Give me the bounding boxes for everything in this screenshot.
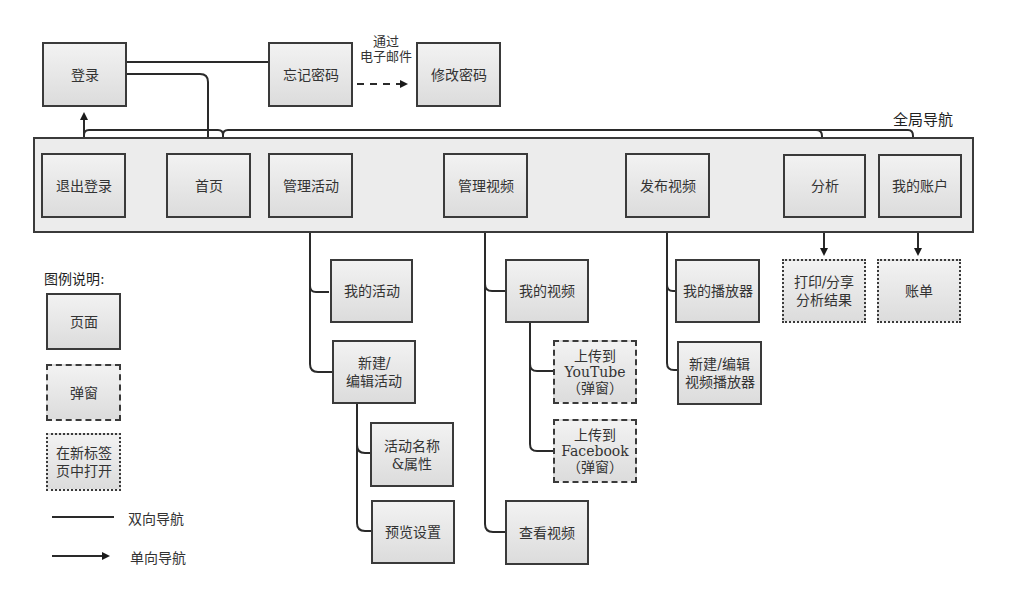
page-event-name-props: 活动名称 &属性 (370, 422, 454, 487)
page-change-password-label: 修改密码 (431, 66, 487, 84)
edge-login-home (126, 74, 208, 146)
newtab-print-share-label: 打印/分享 分析结果 (794, 273, 855, 309)
legend-one-way-label: 单向导航 (130, 547, 186, 567)
page-my-videos: 我的视频 (505, 259, 589, 323)
legend-title: 图例说明: (44, 268, 105, 288)
nav-logout-label: 退出登录 (56, 177, 112, 195)
page-my-events: 我的活动 (330, 259, 413, 323)
nav-manage-videos: 管理视频 (443, 153, 528, 218)
page-preview-settings: 预览设置 (371, 500, 455, 564)
nav-home-label: 首页 (195, 177, 223, 195)
page-login: 登录 (42, 42, 127, 107)
legend-page: 页面 (46, 293, 121, 350)
newtab-billing: 账单 (877, 259, 961, 323)
page-my-events-label: 我的活动 (344, 282, 400, 300)
legend-popup: 弹窗 (46, 364, 121, 421)
page-new-edit-event-label: 新建/ 编辑活动 (346, 354, 402, 390)
legend-page-label: 页面 (70, 313, 98, 331)
nav-manage-events: 管理活动 (268, 153, 353, 218)
popup-upload-youtube: 上传到 YouTube （弹窗） (553, 340, 637, 404)
global-nav-title: 全局导航 (893, 108, 953, 129)
page-event-name-props-label: 活动名称 &属性 (384, 437, 440, 473)
newtab-print-share: 打印/分享 分析结果 (782, 259, 866, 323)
newtab-billing-label: 账单 (905, 282, 933, 300)
popup-upload-facebook-label: 上传到 Facebook （弹窗） (561, 427, 629, 475)
page-my-players-label: 我的播放器 (683, 282, 753, 300)
nav-manage-events-label: 管理活动 (283, 177, 339, 195)
page-login-label: 登录 (71, 66, 99, 84)
page-forgot-password-label: 忘记密码 (283, 66, 339, 84)
nav-logout: 退出登录 (41, 153, 126, 218)
page-my-players: 我的播放器 (675, 259, 760, 323)
page-my-videos-label: 我的视频 (519, 282, 575, 300)
page-view-videos-label: 查看视频 (519, 524, 575, 542)
tree-manage-events (310, 218, 332, 372)
page-new-edit-player: 新建/编辑 视频播放器 (677, 341, 762, 405)
nav-analytics-label: 分析 (811, 177, 839, 195)
nav-manage-videos-label: 管理视频 (458, 177, 514, 195)
popup-upload-youtube-label: 上传到 YouTube （弹窗） (564, 348, 625, 396)
nav-analytics: 分析 (783, 154, 866, 218)
page-view-videos: 查看视频 (505, 500, 589, 565)
legend-two-way-label: 双向导航 (128, 508, 184, 528)
popup-upload-facebook: 上传到 Facebook （弹窗） (553, 419, 637, 483)
legend-newtab-label: 在新标签 页中打开 (56, 444, 112, 480)
page-forgot-password: 忘记密码 (268, 42, 353, 107)
nav-home: 首页 (166, 153, 251, 218)
tree-manage-videos (485, 218, 505, 532)
nav-my-account-label: 我的账户 (892, 177, 948, 195)
email-edge-label: 通过 电子邮件 (355, 34, 417, 64)
nav-publish-video: 发布视频 (625, 153, 710, 218)
page-new-edit-player-label: 新建/编辑 视频播放器 (685, 355, 755, 391)
nav-my-account: 我的账户 (878, 154, 962, 218)
page-change-password: 修改密码 (416, 42, 501, 107)
nav-publish-video-label: 发布视频 (640, 177, 696, 195)
page-new-edit-event: 新建/ 编辑活动 (332, 340, 416, 404)
legend-popup-label: 弹窗 (70, 384, 98, 402)
page-preview-settings-label: 预览设置 (385, 523, 441, 541)
legend-newtab: 在新标签 页中打开 (46, 433, 121, 491)
